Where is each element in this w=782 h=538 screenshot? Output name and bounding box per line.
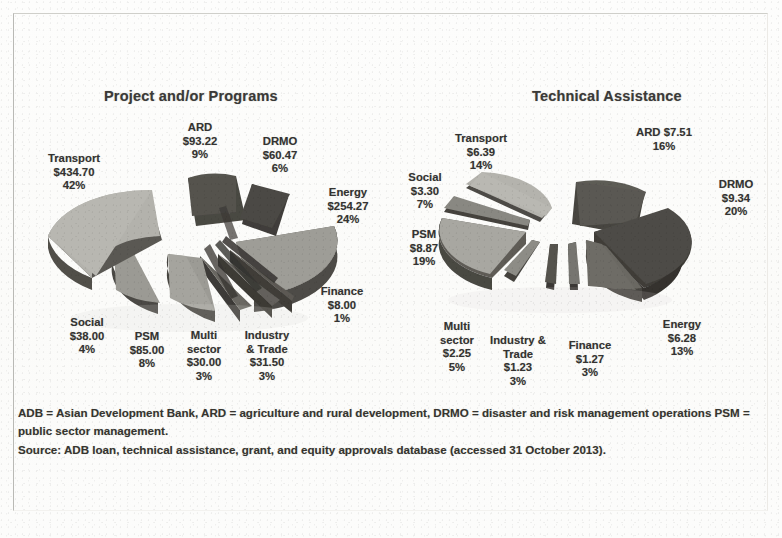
- footnote-source: Source: ADB loan, technical assistance, …: [18, 441, 770, 459]
- label-drmo-ta: DRMO $9.34 20%: [703, 178, 769, 219]
- label-transport-ta: Transport $6.39 14%: [443, 132, 519, 173]
- label-finance-ta: Finance $1.27 3%: [558, 339, 622, 380]
- label-industry-projects: Industry & Trade $31.50 3%: [236, 329, 298, 383]
- label-psm-projects: PSM $85.00 8%: [118, 330, 176, 371]
- label-finance-projects: Finance $8.00 1%: [308, 285, 376, 326]
- slice-top-industry-ta: [545, 244, 558, 284]
- figure-page: Project and/or Programs: [0, 0, 782, 538]
- slice-top-finance-ta: [568, 242, 580, 284]
- footnote-abbreviations: ADB = Asian Development Bank, ARD = agri…: [18, 404, 770, 439]
- label-industry-ta: Industry & Trade $1.23 3%: [481, 334, 555, 388]
- slice-top-ard-2: [188, 176, 236, 216]
- chart-title-projects: Project and/or Programs: [104, 88, 278, 104]
- label-energy-projects: Energy $254.27 24%: [310, 186, 386, 227]
- label-social-ta: Social $3.30 7%: [396, 171, 454, 212]
- chart-title-ta: Technical Assistance: [532, 88, 682, 104]
- pie-center-gap: [556, 178, 569, 234]
- label-social-projects: Social $38.00 4%: [56, 316, 118, 357]
- pie-shadow-ta: [448, 287, 672, 313]
- footnote-block: ADB = Asian Development Bank, ARD = agri…: [18, 404, 770, 459]
- label-energy-ta: Energy $6.28 13%: [650, 318, 714, 359]
- label-transport-projects: Transport $434.70 42%: [28, 152, 120, 193]
- label-multisector-ta: Multi sector $2.25 5%: [429, 320, 485, 374]
- label-drmo-projects: DRMO $60.47 6%: [246, 135, 314, 176]
- label-ard-ta: ARD $7.51 16%: [609, 126, 719, 153]
- label-psm-ta: PSM $8.87 19%: [396, 228, 452, 269]
- label-multisector-projects: Multi sector $30.00 3%: [177, 329, 231, 383]
- label-ard-projects: ARD $93.22 9%: [168, 121, 232, 162]
